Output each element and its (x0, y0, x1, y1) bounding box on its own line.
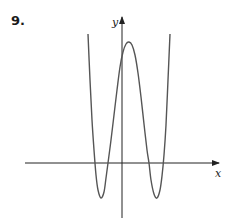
graph: x y (0, 0, 231, 220)
x-axis-label: x (215, 167, 222, 180)
function-curve (88, 34, 170, 198)
y-axis-label: y (111, 16, 119, 29)
